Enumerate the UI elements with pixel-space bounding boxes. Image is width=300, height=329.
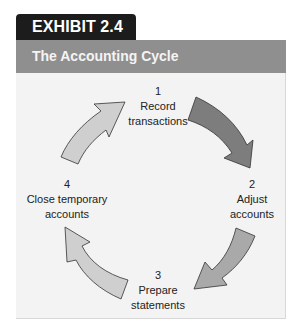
step-adjust-accounts: 2 Adjust accounts	[197, 177, 300, 222]
step-label: Prepare	[103, 283, 213, 298]
step-number: 3	[103, 268, 213, 283]
step-number: 2	[197, 177, 300, 192]
step-label: Adjust	[197, 192, 300, 207]
step-prepare-statements: 3 Prepare statements	[103, 268, 213, 313]
step-label: accounts	[197, 207, 300, 222]
step-number: 4	[12, 177, 122, 192]
step-close-temporary-accounts: 4 Close temporary accounts	[12, 177, 122, 222]
step-label: transactions	[103, 114, 213, 129]
step-label: Close temporary	[12, 192, 122, 207]
step-label: Record	[103, 99, 213, 114]
step-number: 1	[103, 84, 213, 99]
step-label: statements	[103, 298, 213, 313]
step-label: accounts	[12, 207, 122, 222]
step-record-transactions: 1 Record transactions	[103, 84, 213, 129]
